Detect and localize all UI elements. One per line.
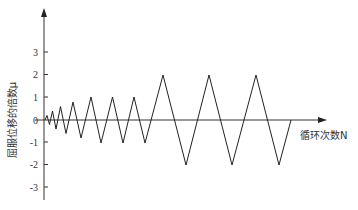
- y-tick-label: -3: [30, 182, 38, 193]
- x-axis-label: 循环次数N: [300, 129, 347, 141]
- y-tick-label: -1: [30, 137, 38, 148]
- y-tick-label: -2: [30, 159, 38, 170]
- y-axis-arrow-icon: [41, 8, 47, 17]
- y-tick-label: 3: [33, 47, 38, 58]
- x-axis-arrow-icon: [318, 117, 327, 123]
- y-tick-label: 1: [33, 92, 38, 103]
- y-tick-label: 0: [33, 115, 38, 126]
- y-axis-label: 屈服位移的倍数μ: [6, 81, 18, 158]
- y-tick-label: 2: [33, 69, 38, 80]
- loading-protocol-chart: 3 2 1 0 -1 -2 -3 屈服位移的倍数μ 循环次数N: [0, 0, 358, 210]
